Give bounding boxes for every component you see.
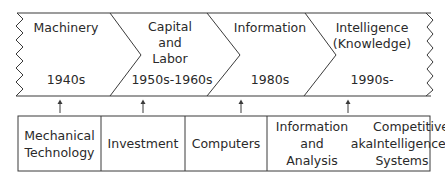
driver-label-line: Technology — [24, 144, 94, 161]
arrow-up-icon — [239, 100, 244, 114]
era-machinery-period: 1940s — [22, 72, 110, 88]
driver-information-analysis-text: Information and Analysis — [269, 118, 355, 169]
era-intelligence-period: 1990s- — [320, 72, 424, 88]
driver-label-line: and — [269, 135, 355, 152]
driver-information-analysis: Information and Analysis aka Competitive… — [267, 116, 430, 171]
arrow-up-icon — [141, 100, 146, 114]
driver-label-line: Competitive — [373, 118, 431, 135]
era-capital-labor-label: Capital and Labor — [120, 19, 220, 67]
arrow-up-icon — [58, 100, 63, 114]
driver-label-line: Computers — [192, 135, 261, 152]
era-label-line: and — [120, 35, 220, 51]
era-information-label: Information — [222, 20, 318, 36]
right-zigzag-edge — [426, 13, 433, 96]
era-label-line: (Knowledge) — [320, 36, 424, 52]
era-capital-labor-period: 1950s-1960s — [124, 72, 220, 88]
driver-label-line: Investment — [108, 135, 179, 152]
competitive-intelligence-systems-text: Competitive Intelligence Systems — [373, 118, 431, 169]
era-intelligence-label: Intelligence (Knowledge) — [320, 20, 424, 52]
driver-label-line: Intelligence — [373, 135, 431, 152]
driver-label-line: Information — [269, 118, 355, 135]
driver-mechanical-technology: Mechanical Technology — [18, 116, 101, 171]
driver-computers: Computers — [185, 116, 267, 171]
driver-label-line: Mechanical — [24, 127, 94, 144]
driver-label-line: Systems — [373, 152, 431, 169]
arrow-up-icon — [346, 100, 351, 114]
era-label-line: Capital — [120, 19, 220, 35]
driver-label-line: Analysis — [269, 152, 355, 169]
era-information-period: 1980s — [222, 72, 318, 88]
era-label-line: Intelligence — [320, 20, 424, 36]
era-label-line: Labor — [120, 51, 220, 67]
era-machinery-label: Machinery — [22, 20, 110, 36]
driver-investment: Investment — [101, 116, 185, 171]
